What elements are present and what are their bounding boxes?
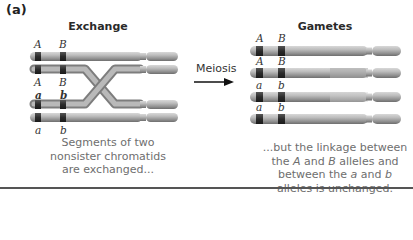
allele-label: a xyxy=(35,89,42,101)
allele-label: a xyxy=(256,79,262,91)
divider-rule xyxy=(0,187,413,189)
allele-label: b xyxy=(60,124,67,136)
exchange-chromatid-4 xyxy=(30,113,178,122)
exchange-chromatid-1 xyxy=(30,52,178,61)
allele-label: A xyxy=(34,76,42,88)
caption-line: are exchanged... xyxy=(28,163,188,177)
meiosis-arrow xyxy=(194,78,234,86)
exchange-caption: Segments of two nonsister chromatids are… xyxy=(28,136,188,177)
allele-label: B xyxy=(278,55,286,67)
meiosis-label: Meiosis xyxy=(196,62,237,75)
caption-line: ...but the linkage between xyxy=(250,141,413,155)
gamete-4 xyxy=(250,114,401,124)
allele-label: B xyxy=(278,32,286,44)
allele-label: a xyxy=(35,124,41,136)
exchange-crossover xyxy=(34,65,178,109)
allele-label: A xyxy=(34,38,42,50)
gamete-3 xyxy=(250,92,401,102)
allele-label: b xyxy=(278,101,285,113)
allele-label: b xyxy=(60,89,67,101)
gamete-1 xyxy=(250,46,401,56)
caption-line: nonsister chromatids xyxy=(28,150,188,164)
gamete-2 xyxy=(250,68,401,78)
caption-line: Segments of two xyxy=(28,136,188,150)
allele-label: B xyxy=(59,38,67,50)
allele-label: b xyxy=(278,79,285,91)
caption-line: the A and B alleles and xyxy=(250,155,413,169)
allele-label: B xyxy=(59,76,67,88)
allele-label: a xyxy=(256,101,262,113)
allele-label: A xyxy=(256,32,264,44)
allele-label: A xyxy=(256,55,264,67)
caption-line: between the a and b xyxy=(250,168,413,182)
